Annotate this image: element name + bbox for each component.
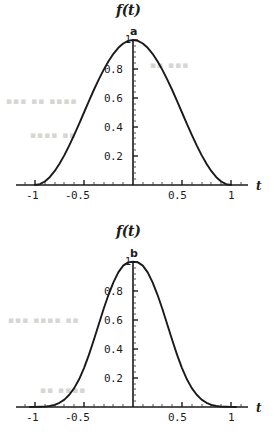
- axis-title-b: f(t): [116, 224, 141, 238]
- y-tick-label-08-a: 0.8: [104, 64, 122, 75]
- panel-letter-a: a: [130, 26, 137, 37]
- x-tick-label-neg05-b: -0.5: [65, 412, 90, 423]
- x-tick-label-pos1-b: 1: [228, 412, 234, 423]
- y-tick-label-1-b: 1: [125, 257, 131, 267]
- x-tick-label-pos1-a: 1: [228, 190, 234, 201]
- y-tick-label-04-b: 0.4: [104, 344, 122, 355]
- x-tick-label-neg1-a: -1: [26, 190, 38, 201]
- y-tick-label-02-a: 0.2: [104, 151, 122, 162]
- y-tick-label-08-b: 0.8: [104, 286, 122, 297]
- y-tick-label-04-a: 0.4: [104, 122, 122, 133]
- x-axis-label-b: t: [256, 402, 261, 414]
- x-tick-label-neg05-a: -0.5: [65, 190, 90, 201]
- plot-area-a: [0, 0, 275, 215]
- axis-title-a: f(t): [116, 3, 141, 17]
- chart-panel-b: ▪▪▪ ▪▪▪▪ ▪▪ ▪▪ ▪▪▪▪: [0, 215, 275, 440]
- y-tick-label-06-a: 0.6: [104, 93, 122, 104]
- y-tick-label-1-a: 1: [125, 35, 131, 45]
- y-tick-label-02-b: 0.2: [104, 373, 122, 384]
- x-tick-label-neg1-b: -1: [26, 412, 38, 423]
- panel-letter-b: b: [130, 248, 138, 259]
- x-tick-label-pos05-b: 0.5: [168, 412, 186, 423]
- x-axis-label-a: t: [256, 180, 261, 192]
- chart-panel-a: ▪▪▪ ▪▪ ▪▪▪▪ ▪▪ ▪▪▪ ▪▪▪▪ ▪▪: [0, 0, 275, 215]
- x-tick-label-pos05-a: 0.5: [168, 190, 186, 201]
- y-tick-label-06-b: 0.6: [104, 315, 122, 326]
